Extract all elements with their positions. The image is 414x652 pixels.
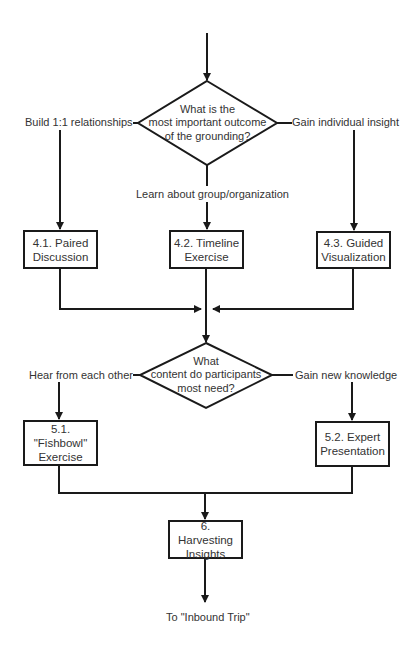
step-4-2-line-2: Exercise xyxy=(174,250,239,264)
step-6-line-2: Insights xyxy=(172,547,239,561)
step-4-2-line-1: 4.2. Timeline xyxy=(174,236,239,250)
step-5-2-line-2: Presentation xyxy=(320,444,385,458)
step-4-1-paired-discussion: 4.1. Paired Discussion xyxy=(23,230,98,269)
step-4-2-timeline-exercise: 4.2. Timeline Exercise xyxy=(169,230,244,269)
edge-label-hear-from-each-other: Hear from each other xyxy=(29,369,133,382)
step-4-3-line-2: Visualization xyxy=(321,250,385,264)
step-4-1-line-1: 4.1. Paired xyxy=(33,236,89,250)
step-4-3-guided-visualization: 4.3. Guided Visualization xyxy=(316,231,391,269)
decision-1-line-1: What is the xyxy=(149,103,267,117)
step-5-2-expert-presentation: 5.2. Expert Presentation xyxy=(315,421,390,467)
step-6-line-1: 6. Harvesting xyxy=(172,519,239,547)
step-4-1-line-2: Discussion xyxy=(33,250,89,264)
decision-2-line-3: most need? xyxy=(151,382,262,396)
decision-1-line-3: of the grounding? xyxy=(149,130,267,144)
step-6-harvesting-insights: 6. Harvesting Insights xyxy=(168,520,243,559)
step-5-1-line-2: Exercise xyxy=(27,450,94,464)
step-5-2-line-1: 5.2. Expert xyxy=(320,430,385,444)
decision-2-line-2: content do participants xyxy=(151,368,262,382)
step-4-3-line-1: 4.3. Guided xyxy=(321,236,385,250)
decision-2-question: What content do participants most need? xyxy=(145,352,267,398)
terminal-to-inbound-trip: To "Inbound Trip" xyxy=(166,611,244,624)
edge-label-build-relationships: Build 1:1 relationships xyxy=(25,116,133,129)
edge-label-gain-individual-insight: Gain individual insight xyxy=(292,116,399,129)
decision-1-question: What is the most important outcome of th… xyxy=(140,100,275,146)
edge-label-learn-about-group: Learn about group/organization xyxy=(136,188,289,201)
decision-1-line-2: most important outcome xyxy=(149,116,267,130)
step-5-1-line-1: 5.1. "Fishbowl" xyxy=(27,422,94,450)
decision-2-line-1: What xyxy=(151,355,262,369)
step-5-1-fishbowl-exercise: 5.1. "Fishbowl" Exercise xyxy=(23,420,98,466)
edge-label-gain-new-knowledge: Gain new knowledge xyxy=(295,369,397,382)
